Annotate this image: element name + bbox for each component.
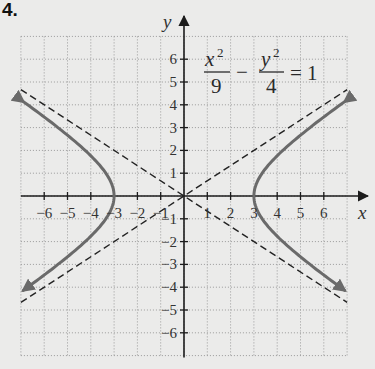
y-tick-label: −6 bbox=[161, 325, 177, 341]
equation-operator: − bbox=[236, 60, 248, 84]
y-tick-label: 2 bbox=[170, 142, 178, 158]
equation-term2-numerator: y bbox=[259, 47, 271, 71]
y-axis-label: y bbox=[161, 11, 172, 32]
hyperbola-plot: −6−5−4−3−2−1123456654321−1−2−3−4−5−6 y x… bbox=[0, 0, 375, 369]
equation-term1-exponent: 2 bbox=[217, 45, 224, 60]
x-tick-label: 3 bbox=[250, 205, 258, 221]
equation-rhs: = 1 bbox=[290, 61, 318, 85]
y-tick-label: −3 bbox=[161, 256, 177, 272]
x-tick-label: −3 bbox=[106, 205, 122, 221]
x-tick-label: −2 bbox=[129, 205, 145, 221]
x-tick-label: −5 bbox=[60, 205, 76, 221]
x-tick-label: 6 bbox=[320, 205, 328, 221]
x-tick-label: −6 bbox=[36, 205, 52, 221]
equation-term2-exponent: 2 bbox=[273, 45, 280, 60]
y-tick-label: 6 bbox=[170, 51, 178, 67]
x-tick-label: −4 bbox=[83, 205, 99, 221]
equation-label: x 2 9 − y 2 4 = 1 bbox=[204, 45, 318, 98]
x-axis-label: x bbox=[357, 202, 367, 223]
y-tick-label: 5 bbox=[170, 74, 178, 90]
y-tick-label: −5 bbox=[161, 302, 177, 318]
graph-figure: 4. −6−5−4−3−2−1123456654321−1−2−3−4−5−6 … bbox=[0, 0, 375, 369]
y-tick-label: 1 bbox=[170, 165, 178, 181]
x-tick-label: 5 bbox=[297, 205, 305, 221]
y-tick-label: −2 bbox=[161, 234, 177, 250]
y-tick-label: 3 bbox=[170, 120, 178, 136]
equation-term1-numerator: x bbox=[204, 47, 215, 71]
equation-term2-denominator: 4 bbox=[266, 74, 277, 98]
y-tick-label: 4 bbox=[170, 97, 178, 113]
equation-term1-denominator: 9 bbox=[211, 74, 222, 98]
y-tick-label: −4 bbox=[161, 279, 177, 295]
x-tick-label: 4 bbox=[273, 205, 281, 221]
x-tick-label: 1 bbox=[204, 205, 212, 221]
y-tick-label: −1 bbox=[161, 211, 177, 227]
x-tick-label: 2 bbox=[227, 205, 235, 221]
